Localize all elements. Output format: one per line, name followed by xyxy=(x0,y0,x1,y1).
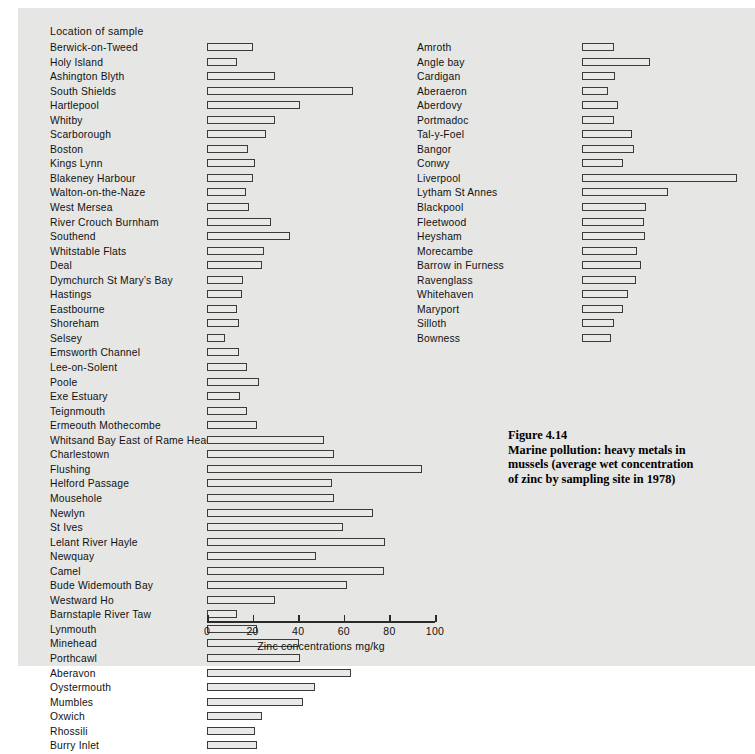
sample-site-label: Ravenglass xyxy=(417,275,473,286)
bar-row: Bude Widemouth Bay xyxy=(18,579,755,594)
sample-site-bar xyxy=(582,218,644,226)
right-bar-column: AmrothAngle bayCardiganAberaeronAberdovy… xyxy=(18,41,755,346)
axis-tick-label: 100 xyxy=(426,625,444,637)
sample-site-bar xyxy=(207,567,384,575)
axis-tick xyxy=(435,615,437,622)
bar-row: Aberavon xyxy=(18,667,755,682)
caption-line: Figure 4.14 xyxy=(508,428,743,443)
sample-site-bar xyxy=(582,130,632,138)
axis-line xyxy=(207,621,435,623)
sample-site-label: Aberavon xyxy=(50,668,96,679)
sample-site-label: Newlyn xyxy=(50,508,85,519)
bar-row: St Ives xyxy=(18,521,755,536)
sample-site-bar xyxy=(582,101,618,109)
axis-title: Zinc concentrations mg/kg xyxy=(257,640,385,652)
sample-site-bar xyxy=(582,334,611,342)
bar-row: Conwy xyxy=(18,157,755,172)
sample-site-label: Morecambe xyxy=(417,246,473,257)
sample-site-label: Exe Estuary xyxy=(50,391,108,402)
sample-site-label: Aberaeron xyxy=(417,86,467,97)
sample-site-bar xyxy=(207,465,422,473)
bar-row: Tal-y-Foel xyxy=(18,128,755,143)
sample-site-bar xyxy=(207,436,324,444)
sample-site-bar xyxy=(207,552,316,560)
sample-site-label: Bude Widemouth Bay xyxy=(50,580,153,591)
sample-site-bar xyxy=(207,712,262,720)
axis-tick-label: 0 xyxy=(204,625,210,637)
sample-site-label: Lee-on-Solent xyxy=(50,362,117,373)
sample-site-bar xyxy=(582,247,637,255)
sample-site-bar xyxy=(207,610,237,618)
axis-tick-label: 60 xyxy=(338,625,350,637)
sample-site-label: Porthcawl xyxy=(50,653,97,664)
sample-site-label: Bangor xyxy=(417,144,451,155)
sample-site-label: Lytham St Annes xyxy=(417,187,497,198)
sample-site-bar xyxy=(207,407,247,415)
sample-site-bar xyxy=(207,523,343,531)
sample-site-label: Heysham xyxy=(417,231,462,242)
bar-row: Oystermouth xyxy=(18,681,755,696)
sample-site-bar xyxy=(582,87,608,95)
sample-site-bar xyxy=(582,43,614,51)
sample-site-bar xyxy=(582,116,614,124)
bar-row: Lelant River Hayle xyxy=(18,536,755,551)
sample-site-bar xyxy=(582,159,623,167)
bar-row: Liverpool xyxy=(18,172,755,187)
sample-site-bar xyxy=(207,509,373,517)
bar-row: Barrow in Furness xyxy=(18,259,755,274)
sample-site-label: Oxwich xyxy=(50,711,85,722)
bar-row: Morecambe xyxy=(18,245,755,260)
axis-tick xyxy=(253,615,255,622)
sample-site-label: Liverpool xyxy=(417,173,461,184)
bar-row: Mumbles xyxy=(18,696,755,711)
caption-line: mussels (average wet concentration xyxy=(508,457,743,472)
bar-row: Angle bay xyxy=(18,56,755,71)
sample-site-bar xyxy=(582,305,623,313)
sample-site-bar xyxy=(582,188,668,196)
figure-page: Location of sample Berwick-on-TweedHoly … xyxy=(18,8,755,666)
bar-row: Whitehaven xyxy=(18,288,755,303)
bar-row: Burry Inlet xyxy=(18,739,755,754)
bar-row: Aberaeron xyxy=(18,85,755,100)
bar-row: Westward Ho xyxy=(18,594,755,609)
axis-tick xyxy=(298,615,300,622)
sample-site-label: Burry Inlet xyxy=(50,740,99,751)
bar-row: Bangor xyxy=(18,143,755,158)
bar-row: Lytham St Annes xyxy=(18,186,755,201)
sample-site-bar xyxy=(582,290,628,298)
x-axis: 020406080100 Zinc concentrations mg/kg xyxy=(207,621,447,661)
bar-row: Blackpool xyxy=(18,201,755,216)
sample-site-label: Poole xyxy=(50,377,77,388)
sample-site-label: Ermeouth Mothecombe xyxy=(50,420,161,431)
sample-site-bar xyxy=(207,698,303,706)
sample-site-label: Angle bay xyxy=(417,57,465,68)
sample-site-bar xyxy=(582,58,650,66)
sample-site-label: Whitsand Bay East of Rame Head xyxy=(50,435,212,446)
bar-row: Ravenglass xyxy=(18,274,755,289)
bar-row: Bowness xyxy=(18,332,755,347)
sample-site-bar xyxy=(207,348,239,356)
sample-site-label: Silloth xyxy=(417,318,446,329)
sample-site-label: Tal-y-Foel xyxy=(417,129,464,140)
bar-row: Emsworth Channel xyxy=(18,346,755,361)
bar-row: Aberdovy xyxy=(18,99,755,114)
axis-tick-label: 80 xyxy=(383,625,395,637)
sample-site-bar xyxy=(582,276,636,284)
figure-caption: Figure 4.14Marine pollution: heavy metal… xyxy=(508,428,743,486)
sample-site-bar xyxy=(207,421,257,429)
bar-row: Mousehole xyxy=(18,492,755,507)
sample-site-label: Charlestown xyxy=(50,449,109,460)
sample-site-label: Camel xyxy=(50,566,81,577)
sample-site-bar xyxy=(582,72,615,80)
column-heading: Location of sample xyxy=(50,25,144,37)
bar-row: Heysham xyxy=(18,230,755,245)
sample-site-label: Fleetwood xyxy=(417,217,466,228)
sample-site-label: Rhossili xyxy=(50,726,88,737)
sample-site-bar xyxy=(207,596,275,604)
axis-tick-label: 20 xyxy=(246,625,258,637)
sample-site-bar xyxy=(207,538,385,546)
bar-row: Exe Estuary xyxy=(18,390,755,405)
sample-site-bar xyxy=(207,450,334,458)
bar-row: Fleetwood xyxy=(18,216,755,231)
sample-site-label: Minehead xyxy=(50,638,97,649)
